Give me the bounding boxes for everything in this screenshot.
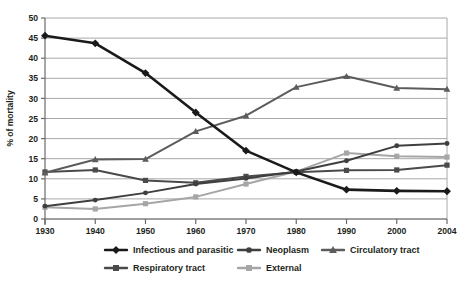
series-circulatory-tract (42, 73, 451, 176)
x-tick-label: 1950 (136, 226, 155, 236)
chart-legend: Infectious and parasiticNeoplasmCirculat… (105, 245, 420, 273)
data-point (444, 154, 449, 159)
legend-label: External (266, 263, 302, 273)
y-axis-title: % of mortality (5, 90, 15, 146)
y-tick-label: 40 (28, 53, 38, 63)
data-point (443, 187, 451, 195)
data-point (243, 181, 248, 186)
data-point (393, 187, 401, 195)
legend-label: Respiratory tract (133, 263, 205, 273)
data-point (344, 168, 349, 173)
data-point (93, 167, 98, 172)
y-tick-label: 30 (28, 94, 38, 104)
data-point (344, 158, 349, 163)
chart-canvas: 0510152025303540455019301940195019601970… (0, 0, 461, 286)
x-tick-label: 1940 (86, 226, 105, 236)
legend-item-neoplasm[interactable]: Neoplasm (238, 245, 309, 255)
series-line (45, 153, 447, 209)
data-point (394, 143, 399, 148)
x-axis-ticks: 193019401950196019701980199020002004 (35, 219, 456, 236)
x-tick-label: 2004 (437, 226, 456, 236)
x-tick-label: 1960 (186, 226, 205, 236)
y-axis-ticks: 05101520253035404550 (28, 13, 45, 224)
data-point (343, 186, 351, 194)
legend-label: Neoplasm (266, 245, 309, 255)
y-tick-label: 0 (33, 214, 38, 224)
data-point (93, 198, 98, 203)
data-point (444, 163, 449, 168)
y-tick-label: 10 (28, 174, 38, 184)
x-tick-label: 1980 (287, 226, 306, 236)
data-point (143, 201, 148, 206)
y-tick-label: 15 (28, 154, 38, 164)
legend-marker-circle-icon (246, 247, 252, 253)
y-tick-label: 20 (28, 134, 38, 144)
legend-label: Circulatory tract (350, 245, 420, 255)
data-point (143, 190, 148, 195)
y-tick-label: 35 (28, 73, 38, 83)
data-point (93, 206, 98, 211)
data-point (193, 194, 198, 199)
data-point (394, 167, 399, 172)
data-point (143, 178, 148, 183)
x-tick-label: 1970 (236, 226, 255, 236)
data-point (244, 176, 249, 181)
y-tick-label: 25 (28, 114, 38, 124)
y-tick-label: 45 (28, 33, 38, 43)
data-point (344, 150, 349, 155)
x-tick-label: 2000 (387, 226, 406, 236)
data-point (445, 141, 450, 146)
legend-label: Infectious and parasitic (133, 245, 234, 255)
data-point (43, 204, 48, 209)
mortality-line-chart: 0510152025303540455019301940195019601970… (0, 0, 461, 286)
legend-marker-diamond-icon (112, 246, 120, 254)
x-tick-label: 1930 (35, 226, 54, 236)
legend-marker-square-icon (246, 265, 252, 271)
data-point (193, 182, 198, 187)
legend-item-infectious-and-parasitic[interactable]: Infectious and parasitic (105, 245, 234, 255)
y-tick-label: 50 (28, 13, 38, 23)
y-tick-label: 5 (33, 194, 38, 204)
legend-item-circulatory-tract[interactable]: Circulatory tract (322, 245, 420, 255)
x-tick-label: 1990 (337, 226, 356, 236)
legend-item-respiratory-tract[interactable]: Respiratory tract (105, 263, 205, 273)
data-point (394, 154, 399, 159)
legend-marker-square-icon (113, 265, 119, 271)
legend-item-external[interactable]: External (238, 263, 302, 273)
